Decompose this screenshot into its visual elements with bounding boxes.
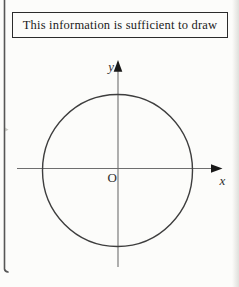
scanned-page-background: This information is sufficient to draw y… (0, 0, 239, 287)
x-axis-label: x (219, 173, 226, 188)
origin-label: O (108, 170, 117, 185)
y-axis-arrowhead-icon (114, 60, 123, 72)
y-axis-label: y (106, 59, 114, 74)
left-rule-artifact (5, 128, 9, 132)
x-axis-arrowhead-icon (211, 164, 223, 173)
page-left-rule (5, 0, 9, 272)
circle-diagram: y x O (0, 0, 239, 287)
